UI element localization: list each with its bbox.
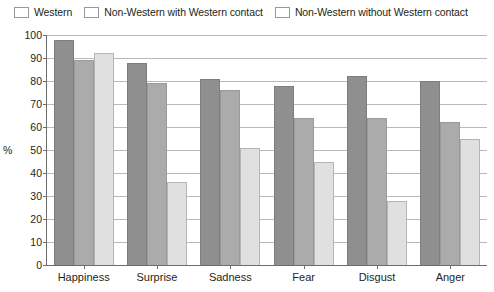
y-axis-tick-label: 40 xyxy=(18,168,42,178)
x-axis-tick-label: Disgust xyxy=(340,271,413,283)
legend-swatch-icon xyxy=(14,7,29,18)
legend-entry-western: Western xyxy=(14,6,72,18)
x-axis-tick-mark xyxy=(230,266,231,269)
y-axis-title: % xyxy=(3,145,12,155)
x-axis-tick-label: Sadness xyxy=(194,271,267,283)
legend-label: Western xyxy=(34,6,72,18)
y-axis-tick-label: 90 xyxy=(18,53,42,63)
x-axis-tick-labels: HappinessSurpriseSadnessFearDisgustAnger xyxy=(47,35,487,265)
x-axis-tick-label: Happiness xyxy=(47,271,120,283)
x-axis-tick-mark xyxy=(84,266,85,269)
y-axis-tick-label: 20 xyxy=(18,214,42,224)
plot-area: HappinessSurpriseSadnessFearDisgustAnger xyxy=(47,35,487,265)
y-axis-tick-label: 80 xyxy=(18,76,42,86)
x-axis-tick-mark xyxy=(157,266,158,269)
chart-legend: Western Non-Western with Western contact… xyxy=(14,3,480,21)
x-axis-tick-mark xyxy=(377,266,378,269)
legend-label: Non-Western without Western contact xyxy=(295,6,468,18)
y-axis-tick-label: 100 xyxy=(18,30,42,40)
legend-swatch-icon xyxy=(84,7,99,18)
x-axis-tick-label: Anger xyxy=(414,271,487,283)
x-axis-line xyxy=(46,265,487,266)
y-axis-tick-label: 30 xyxy=(18,191,42,201)
x-axis-tick-label: Fear xyxy=(267,271,340,283)
legend-swatch-icon xyxy=(275,7,290,18)
legend-entry-non-western-without-contact: Non-Western without Western contact xyxy=(275,6,468,18)
y-axis-tick-label: 70 xyxy=(18,99,42,109)
x-axis-tick-mark xyxy=(450,266,451,269)
bar-chart: Western Non-Western with Western contact… xyxy=(0,0,494,292)
x-axis-tick-mark xyxy=(304,266,305,269)
y-axis-tick-label: 10 xyxy=(18,237,42,247)
y-axis-tick-label: 50 xyxy=(18,145,42,155)
legend-entry-non-western-with-contact: Non-Western with Western contact xyxy=(84,6,263,18)
y-axis-tick-label: 60 xyxy=(18,122,42,132)
legend-label: Non-Western with Western contact xyxy=(104,6,263,18)
y-axis-tick-label: 0 xyxy=(18,260,42,270)
x-axis-tick-label: Surprise xyxy=(120,271,193,283)
